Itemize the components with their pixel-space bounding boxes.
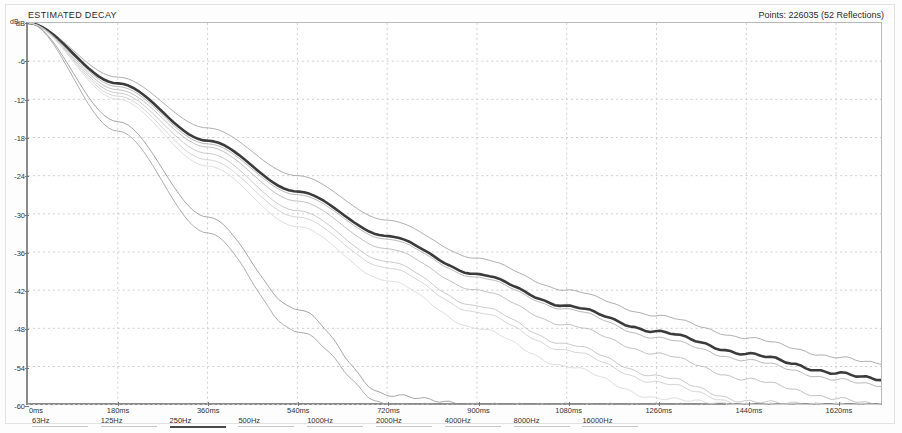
x-axis-tick-label: 720ms xyxy=(377,406,400,415)
frequency-band-label: 125Hz xyxy=(101,416,157,425)
y-axis-tick-label: dB xyxy=(16,19,25,28)
x-axis-tick xyxy=(298,402,299,406)
decay-curve-16000hz xyxy=(28,23,881,405)
x-axis-tick-label: 1080ms xyxy=(555,406,582,415)
x-axis-tick-label: 1620ms xyxy=(826,406,853,415)
decay-curve-500hz xyxy=(28,23,881,405)
frequency-band-4000hz[interactable]: 4000Hz xyxy=(445,416,501,428)
y-axis-tick xyxy=(25,253,29,254)
x-axis-tick xyxy=(749,402,750,406)
y-axis-tick xyxy=(25,329,29,330)
frequency-band-label: 1000Hz xyxy=(307,416,363,425)
y-axis-tick xyxy=(25,368,29,369)
x-axis-tick-label: 180ms xyxy=(107,406,130,415)
y-axis-tick xyxy=(25,100,29,101)
frequency-band-underline xyxy=(445,426,501,427)
y-axis-tick-label: -12 xyxy=(14,95,25,104)
frequency-band-8000hz[interactable]: 8000Hz xyxy=(514,416,570,428)
frequency-band-underline xyxy=(101,426,157,427)
decay-curve-2000hz xyxy=(28,23,881,405)
frequency-band-underline xyxy=(32,426,88,427)
frequency-band-16000hz[interactable]: 16000Hz xyxy=(582,416,638,428)
decay-curve-1000hz xyxy=(28,23,881,405)
frequency-band-label: 63Hz xyxy=(32,416,88,425)
frequency-band-label: 4000Hz xyxy=(445,416,501,425)
x-axis-tick xyxy=(659,402,660,406)
decay-curve-125hz xyxy=(28,23,881,387)
y-axis-tick xyxy=(25,291,29,292)
y-axis-tick-label: -18 xyxy=(14,133,25,142)
y-axis-tick-label: -30 xyxy=(14,210,25,219)
plot-inner: dB-6-12-18-24-30-36-42-48-54-600ms180ms3… xyxy=(28,23,881,403)
x-axis-tick-label: 540ms xyxy=(287,406,310,415)
frequency-band-underline xyxy=(307,426,363,427)
x-axis-tick xyxy=(479,402,480,406)
decay-curve-4000hz xyxy=(28,23,881,405)
y-axis-tick-label: -24 xyxy=(14,172,25,181)
x-axis-tick-label: 1440ms xyxy=(735,406,762,415)
y-axis-tick-label: -54 xyxy=(14,363,25,372)
points-status-label: Points: 226035 (52 Reflections) xyxy=(758,10,884,20)
x-axis-tick xyxy=(388,402,389,406)
y-axis-tick-label: -60 xyxy=(14,402,25,411)
frequency-band-63hz[interactable]: 63Hz xyxy=(32,416,88,428)
x-axis-tick-label: 1260ms xyxy=(645,406,672,415)
x-axis-tick xyxy=(118,402,119,406)
frequency-band-underline xyxy=(376,426,432,427)
x-axis-tick xyxy=(208,402,209,406)
decay-curve-250hz xyxy=(28,23,881,380)
estimated-decay-screenshot: ESTIMATED DECAY Points: 226035 (52 Refle… xyxy=(0,0,902,433)
frequency-band-underline xyxy=(582,426,638,427)
y-axis-tick xyxy=(25,215,29,216)
frequency-band-label: 2000Hz xyxy=(376,416,432,425)
x-axis-tick xyxy=(569,402,570,406)
y-axis-tick-label: -6 xyxy=(18,57,25,66)
y-axis-tick xyxy=(25,138,29,139)
x-axis-tick-label: 900ms xyxy=(467,406,490,415)
frequency-band-label: 8000Hz xyxy=(514,416,570,425)
frequency-band-underline xyxy=(238,426,294,427)
frequency-band-2000hz[interactable]: 2000Hz xyxy=(376,416,432,428)
frequency-band-underline xyxy=(514,426,570,427)
y-axis-tick-label: -36 xyxy=(14,248,25,257)
y-axis-tick-label: -42 xyxy=(14,287,25,296)
frequency-band-125hz[interactable]: 125Hz xyxy=(101,416,157,428)
frequency-band-label: 500Hz xyxy=(238,416,294,425)
decay-curves xyxy=(28,23,881,405)
decay-plot[interactable]: dB-6-12-18-24-30-36-42-48-54-600ms180ms3… xyxy=(26,22,882,405)
page-title: ESTIMATED DECAY xyxy=(28,10,117,20)
y-axis-tick-label: -48 xyxy=(14,325,25,334)
y-axis-tick xyxy=(25,61,29,62)
frequency-band-1000hz[interactable]: 1000Hz xyxy=(307,416,363,428)
y-axis-tick xyxy=(25,176,29,177)
frequency-band-label: 16000Hz xyxy=(582,416,638,425)
x-axis-tick-label: 0ms xyxy=(29,406,43,415)
decay-curve-8000hz xyxy=(28,23,881,405)
frequency-band-underline xyxy=(170,426,226,428)
decay-curve-63hz xyxy=(28,23,881,364)
frequency-band-500hz[interactable]: 500Hz xyxy=(238,416,294,428)
frequency-band-250hz[interactable]: 250Hz xyxy=(170,416,226,429)
y-axis-tick xyxy=(25,23,29,24)
frequency-band-label: 250Hz xyxy=(170,416,226,425)
x-axis-tick-label: 360ms xyxy=(197,406,220,415)
x-axis-tick xyxy=(839,402,840,406)
